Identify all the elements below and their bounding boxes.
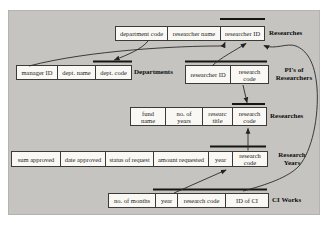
label-line: Research <box>278 151 305 159</box>
field-text: researcher name <box>173 30 215 37</box>
field-text: fund <box>142 110 154 117</box>
field-researcher-name: researcher name <box>168 27 221 40</box>
field-research-title: researc title <box>203 108 233 125</box>
field-text: name <box>141 117 155 124</box>
field-text: manager ID <box>22 69 53 76</box>
field-text: code <box>244 159 256 166</box>
table-ci-works: no. of months year research code ID of C… <box>108 193 269 208</box>
field-text: ID of CI <box>236 197 258 204</box>
field-status-of-request: status of request <box>106 152 154 166</box>
label-line: Researchers <box>276 74 312 82</box>
field-id-of-ci: ID of CI <box>226 194 268 207</box>
label-researches-top: Researches <box>269 29 302 37</box>
label-ci-works: CI Works <box>272 196 301 204</box>
field-fund-name: fund name <box>131 108 166 125</box>
label-line: PI's of <box>284 66 303 74</box>
field-dept-code: dept. code <box>96 66 131 79</box>
field-amount-requested: amount requested <box>154 152 209 166</box>
field-text: status of request <box>109 156 149 163</box>
field-text: year <box>161 197 172 204</box>
field-text: researcher ID <box>190 71 225 78</box>
field-dept-name: dept. name <box>58 66 96 79</box>
field-research-code: research code <box>178 194 226 207</box>
field-text: sum approved <box>18 156 55 163</box>
field-text: no. of <box>176 110 191 117</box>
field-research-code: research code <box>233 108 266 125</box>
field-text: date approved <box>65 156 102 163</box>
field-year: year <box>156 194 178 207</box>
field-date-approved: date approved <box>61 152 106 166</box>
field-research-code: research code <box>233 152 267 166</box>
field-text: researcher ID <box>225 30 260 37</box>
table-departments: manager ID dept. name dept. code <box>16 65 132 80</box>
schema-diagram: department code researcher name research… <box>0 0 327 229</box>
field-text: title <box>212 117 222 124</box>
table-pis-of-researchers: researcher ID research code <box>185 65 269 84</box>
field-text: dept. code <box>100 69 127 76</box>
field-year: year <box>209 152 233 166</box>
field-researcher-id: researcher ID <box>221 27 264 40</box>
field-text: code <box>243 117 255 124</box>
field-department-code: department code <box>116 27 168 40</box>
field-text: code <box>243 75 255 82</box>
field-text: no. of months <box>114 197 150 204</box>
field-text: researc <box>208 110 226 117</box>
label-researches: Researches <box>270 112 303 120</box>
table-researches-top: department code researcher name research… <box>115 26 265 41</box>
label-departments: Departments <box>134 68 173 76</box>
field-no-of-months: no. of months <box>109 194 156 207</box>
table-research-years: sum approved date approved status of req… <box>11 151 268 167</box>
field-text: research <box>239 152 261 159</box>
table-researches: fund name no. of years researc title res… <box>130 107 267 126</box>
field-text: dept. name <box>62 69 91 76</box>
label-line: Years <box>284 159 301 167</box>
field-researcher-id: researcher ID <box>186 66 231 83</box>
field-manager-id: manager ID <box>17 66 58 79</box>
field-text: research code <box>184 197 220 204</box>
field-research-code: research code <box>231 66 268 83</box>
field-no-of-years: no. of years <box>166 108 203 125</box>
field-sum-approved: sum approved <box>12 152 61 166</box>
field-text: year <box>215 156 226 163</box>
field-text: research <box>239 68 261 75</box>
field-text: years <box>177 117 191 124</box>
field-text: department code <box>120 30 163 37</box>
field-text: amount requested <box>158 156 204 163</box>
label-research-years: ResearchYears <box>272 151 312 167</box>
label-pis-of-researchers: PI's ofResearchers <box>271 66 317 82</box>
field-text: research <box>239 110 261 117</box>
